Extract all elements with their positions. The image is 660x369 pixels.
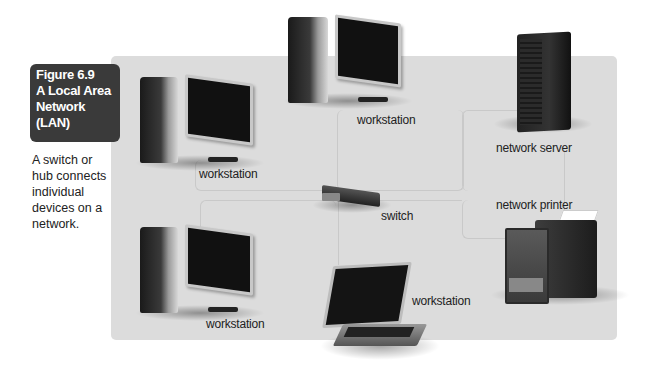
workstation-bottom-left-icon [140,225,260,320]
label-workstation-laptop: workstation [412,294,471,308]
figure-title-line-1: A Local Area [36,83,120,99]
label-workstation-top-center: workstation [357,113,416,127]
network-server-icon [505,33,585,133]
figure-number: Figure 6.9 [36,67,120,83]
figure-title-line-2: Network [36,99,120,115]
label-workstation-bottom-left: workstation [206,317,265,331]
switch-icon [320,183,385,213]
figure-caption-box: Figure 6.9 A Local Area Network (LAN) [30,64,120,142]
laptop-icon [320,262,430,362]
figure-title-line-3: (LAN) [36,115,120,131]
label-network-server: network server [496,141,572,155]
label-switch: switch [381,209,413,223]
workstation-top-left-icon [140,75,260,170]
workstation-top-center-icon [288,15,408,110]
label-workstation-top-left: workstation [199,167,258,181]
figure-description: A switch or hub connects individual devi… [32,152,114,232]
network-printer-icon [505,210,615,305]
